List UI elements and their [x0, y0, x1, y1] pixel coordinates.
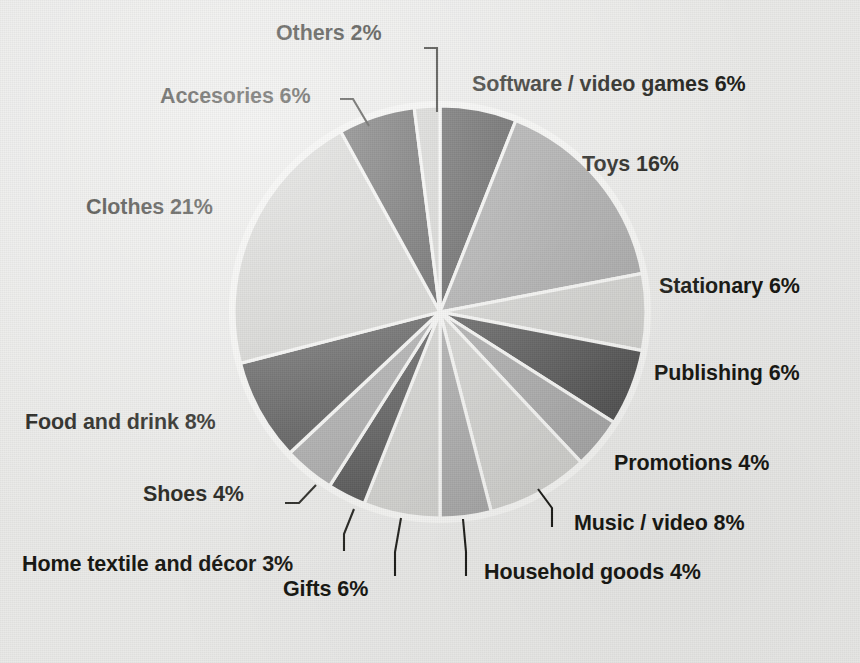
slice-label-others: Others 2%: [276, 22, 381, 45]
leader-line-household: [463, 519, 466, 576]
slice-label-stationary: Stationary 6%: [659, 275, 800, 298]
slice-label-gifts: Gifts 6%: [283, 578, 368, 601]
leader-line-hometextile: [344, 509, 354, 551]
leader-line-shoes: [285, 485, 316, 503]
slice-label-software-video-games: Software / video games 6%: [472, 73, 746, 96]
pie-chart-figure: Others 2% Software / video games 6% Acce…: [0, 0, 860, 663]
slice-label-home-textile-and-decor: Home textile and décor 3%: [22, 553, 293, 576]
leader-line-music: [538, 489, 552, 527]
slice-label-shoes: Shoes 4%: [143, 483, 244, 506]
slice-label-household-goods: Household goods 4%: [484, 561, 701, 584]
leader-line-gifts: [395, 518, 401, 576]
slice-label-music-video: Music / video 8%: [574, 512, 744, 535]
slice-label-toys: Toys 16%: [582, 153, 679, 176]
slice-label-clothes: Clothes 21%: [86, 196, 213, 219]
leader-line-accesories: [340, 99, 369, 126]
slice-label-food-and-drink: Food and drink 8%: [25, 411, 216, 434]
slice-label-promotions: Promotions 4%: [614, 452, 769, 475]
slice-label-publishing: Publishing 6%: [654, 362, 800, 385]
leader-line-others: [424, 48, 437, 112]
slice-label-accesories: Accesories 6%: [160, 85, 311, 108]
